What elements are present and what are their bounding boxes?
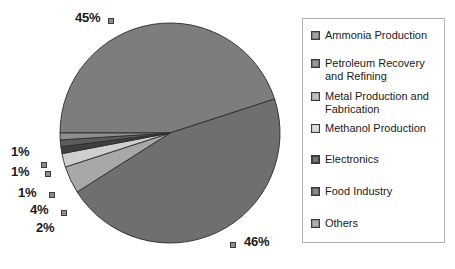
legend-item-electronics[interactable]: Electronics — [311, 153, 379, 166]
label-marker-ammonia — [108, 18, 114, 24]
data-label-others: 1% — [18, 185, 36, 200]
label-marker-food — [41, 162, 47, 168]
legend-item-others[interactable]: Others — [311, 217, 358, 230]
legend-label: Food Industry — [325, 185, 392, 198]
legend-swatch-icon — [311, 155, 320, 164]
legend-swatch-icon — [311, 219, 320, 228]
data-label-ammonia: 45% — [75, 10, 100, 25]
legend-item-petroleum[interactable]: Petroleum Recovery and Refining — [311, 57, 443, 82]
legend-label: Ammonia Production — [325, 29, 427, 42]
legend-label: Petroleum Recovery and Refining — [325, 57, 443, 82]
legend-swatch-icon — [311, 92, 320, 101]
legend-swatch-icon — [311, 124, 320, 133]
label-marker-others — [49, 192, 55, 198]
legend-label: Methanol Production — [325, 122, 426, 135]
legend-item-metal[interactable]: Metal Production and Fabrication — [311, 90, 443, 115]
data-label-electronics: 1% — [11, 144, 29, 159]
legend-item-ammonia[interactable]: Ammonia Production — [311, 29, 427, 42]
legend: Ammonia Production Petroleum Recovery an… — [302, 18, 445, 243]
label-marker-food2 — [45, 171, 51, 177]
legend-label: Electronics — [325, 153, 379, 166]
data-label-food: 1% — [11, 164, 29, 179]
data-label-petroleum: 46% — [244, 234, 269, 249]
label-marker-petroleum — [230, 242, 236, 248]
pie-chart: 45% 46% 4% 2% 1% 1% 1% Ammonia Productio… — [0, 0, 455, 269]
legend-item-methanol[interactable]: Methanol Production — [311, 122, 426, 135]
data-label-metal: 4% — [30, 202, 48, 217]
legend-swatch-icon — [311, 187, 320, 196]
data-label-methanol: 2% — [36, 220, 54, 235]
legend-label: Metal Production and Fabrication — [325, 90, 443, 115]
pie-slices — [60, 23, 280, 243]
legend-swatch-icon — [311, 59, 320, 68]
legend-label: Others — [325, 217, 358, 230]
label-marker-metal — [61, 210, 67, 216]
legend-item-food[interactable]: Food Industry — [311, 185, 392, 198]
legend-swatch-icon — [311, 31, 320, 40]
